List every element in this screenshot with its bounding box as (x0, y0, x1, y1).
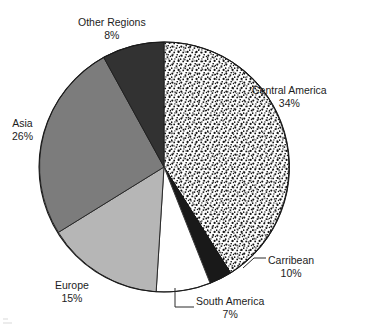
slice-label-other-regions-percent: 8% (78, 29, 146, 42)
slice-label-south-america-name: South America (196, 295, 264, 308)
slice-label-asia-percent: 26% (12, 130, 33, 143)
slice-label-asia-name: Asia (12, 117, 33, 130)
slice-label-carribean-name: Carribean (268, 254, 314, 267)
page-corner-artifact (3, 318, 15, 325)
slice-label-other-regions: Other Regions 8% (78, 16, 146, 41)
pie-chart-figure: Central America 34% Carribean 10% South … (0, 0, 368, 328)
slice-label-europe-percent: 15% (55, 292, 89, 305)
slice-label-central-america-percent: 34% (252, 97, 327, 110)
slice-label-carribean: Carribean 10% (268, 254, 314, 279)
slice-label-other-regions-name: Other Regions (78, 16, 146, 29)
slice-label-central-america: Central America 34% (252, 84, 327, 109)
slice-label-europe-name: Europe (55, 279, 89, 292)
slice-label-carribean-percent: 10% (268, 267, 314, 280)
slice-label-central-america-name: Central America (252, 84, 327, 97)
slice-label-europe: Europe 15% (55, 279, 89, 304)
slice-label-asia: Asia 26% (12, 117, 33, 142)
slice-label-south-america: South America 7% (196, 295, 264, 320)
slice-label-south-america-percent: 7% (196, 308, 264, 321)
